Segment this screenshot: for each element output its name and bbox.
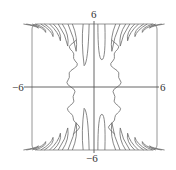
curve-lobe: [120, 128, 130, 150]
x-axis-min-label: −6: [12, 82, 24, 93]
curve-lobe: [111, 123, 120, 150]
curve-lobe: [58, 24, 68, 46]
y-axis-max-label: 6: [91, 9, 97, 20]
curve-center-lobe: [98, 24, 105, 60]
curve-center-lobe: [82, 108, 89, 150]
curve-center-lobe: [82, 24, 89, 66]
curve-center-lobe: [98, 114, 105, 150]
curve-lobe: [58, 128, 68, 150]
curve-lobe: [68, 123, 77, 150]
axes: [24, 21, 159, 153]
y-axis-min-label: −6: [86, 153, 98, 164]
x-axis-max-label: 6: [160, 82, 166, 93]
implicit-curve-plot: [0, 0, 176, 170]
curve-lobe: [120, 24, 130, 46]
